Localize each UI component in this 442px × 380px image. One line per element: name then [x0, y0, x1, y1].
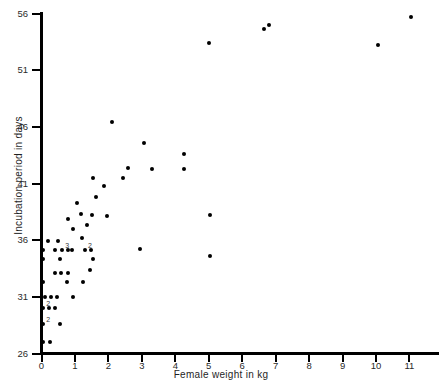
data-point — [71, 295, 75, 299]
y-tick-label: 31 — [6, 291, 28, 302]
data-point — [79, 212, 83, 216]
y-tick-label: 51 — [6, 64, 28, 75]
data-point — [48, 340, 52, 344]
data-point — [46, 239, 50, 243]
y-axis-title: Incubation period in days — [13, 86, 24, 266]
y-axis-line — [40, 12, 43, 355]
data-point — [41, 248, 45, 252]
data-point — [53, 248, 57, 252]
data-point — [126, 166, 130, 170]
data-point — [60, 248, 64, 252]
data-point — [91, 176, 95, 180]
data-point — [208, 213, 212, 217]
y-tick — [32, 126, 40, 128]
data-point — [56, 239, 60, 243]
data-point — [262, 27, 266, 31]
data-point — [41, 306, 45, 310]
data-point — [43, 295, 47, 299]
data-point — [66, 217, 70, 221]
data-point — [376, 43, 380, 47]
data-point — [110, 120, 114, 124]
plot-area: 26313641465156 01234567891011 2232 Femal… — [0, 0, 442, 380]
data-point — [83, 248, 87, 252]
y-tick — [32, 353, 40, 355]
data-point — [90, 213, 94, 217]
x-axis-title: Female weight in kg — [0, 369, 442, 380]
data-point — [409, 15, 413, 19]
data-point — [75, 201, 79, 205]
data-point — [47, 306, 51, 310]
data-point — [41, 257, 45, 261]
y-tick — [32, 183, 40, 185]
data-point — [207, 41, 211, 45]
data-point — [70, 248, 74, 252]
data-point — [41, 280, 45, 284]
data-point — [65, 280, 69, 284]
data-point — [41, 322, 45, 326]
data-point — [150, 167, 154, 171]
scatter-plot-figure: 26313641465156 01234567891011 2232 Femal… — [0, 0, 442, 380]
x-axis-line — [40, 352, 439, 355]
data-point — [59, 271, 63, 275]
data-point — [81, 280, 85, 284]
data-point — [71, 227, 75, 231]
data-point — [121, 176, 125, 180]
data-point — [267, 23, 271, 27]
data-point — [88, 268, 92, 272]
data-point — [53, 271, 57, 275]
data-point — [49, 295, 53, 299]
data-point — [138, 247, 142, 251]
data-point — [102, 184, 106, 188]
data-point — [66, 248, 70, 252]
data-point — [89, 248, 93, 252]
data-point — [58, 322, 62, 326]
y-tick — [32, 69, 40, 71]
y-tick — [32, 13, 40, 15]
data-point — [58, 257, 62, 261]
data-point — [85, 223, 89, 227]
y-tick — [32, 239, 40, 241]
data-point — [80, 236, 84, 240]
data-point — [53, 306, 57, 310]
y-tick-label: 26 — [6, 348, 28, 359]
point-multiplicity-label: 2 — [46, 316, 50, 323]
data-point — [105, 214, 109, 218]
data-point — [94, 195, 98, 199]
data-point — [182, 167, 186, 171]
data-point — [66, 271, 70, 275]
y-tick-label: 56 — [6, 8, 28, 19]
y-tick — [32, 296, 40, 298]
data-point — [55, 295, 59, 299]
data-point — [91, 257, 95, 261]
data-point — [182, 152, 186, 156]
data-point — [208, 254, 212, 258]
data-point — [41, 340, 45, 344]
data-point — [142, 141, 146, 145]
